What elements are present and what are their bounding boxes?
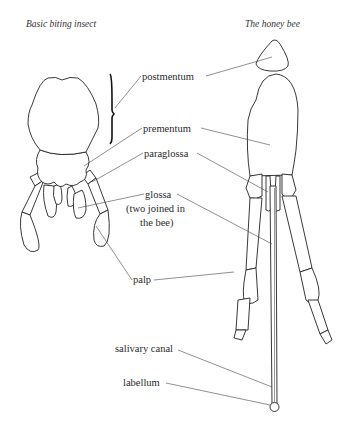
label-glossa: glossa xyxy=(145,189,172,200)
label-palp: palp xyxy=(133,274,151,285)
label-glossa-note-line2: the bee) xyxy=(140,217,174,229)
labium-comparison-diagram: Basic biting insect The honey bee xyxy=(0,0,345,430)
biting-insect-labium xyxy=(20,74,114,252)
label-paraglossa: paraglossa xyxy=(144,148,189,159)
honey-bee-labium xyxy=(234,40,332,412)
title-honey-bee: The honey bee xyxy=(245,19,300,29)
label-labellum: labellum xyxy=(123,377,160,388)
label-postmentum: postmentum xyxy=(142,71,194,82)
label-prementum: prementum xyxy=(143,123,191,134)
title-basic-biting-insect: Basic biting insect xyxy=(26,19,97,29)
label-salivary-canal: salivary canal xyxy=(115,343,173,354)
label-glossa-note-line1: (two joined in xyxy=(126,203,186,215)
